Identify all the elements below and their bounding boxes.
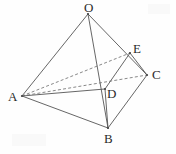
dashed-edge-group — [22, 53, 147, 96]
geometry-figure: O E C A D B — [0, 0, 176, 154]
edge-DE — [105, 53, 130, 89]
vertex-dot-D — [104, 88, 106, 90]
vertex-dot-E — [129, 52, 131, 54]
vertex-dot-C — [146, 74, 148, 76]
vertex-label-B: B — [104, 132, 113, 145]
scan-artifact-top-right — [148, 4, 170, 14]
vertex-dot-A — [21, 95, 23, 97]
vertex-dot-group — [21, 13, 148, 129]
edge-AB — [22, 96, 108, 128]
edge-OA — [22, 14, 88, 96]
vertex-label-C: C — [152, 68, 161, 81]
vertex-label-D: D — [107, 87, 116, 100]
scan-artifact-bottom-left — [12, 134, 46, 146]
vertex-label-E: E — [133, 42, 141, 55]
vertex-label-A: A — [8, 90, 17, 103]
edge-AC — [22, 75, 147, 96]
vertex-dot-B — [107, 127, 109, 129]
edge-AD — [22, 89, 105, 96]
vertex-label-O: O — [84, 1, 93, 14]
solid-edge-group — [22, 14, 147, 128]
geometry-svg — [0, 0, 176, 154]
edge-BC — [108, 75, 147, 128]
edge-EC — [130, 53, 147, 75]
